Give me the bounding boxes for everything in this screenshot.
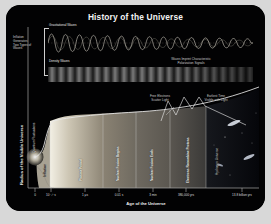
quantum-fluctuations-label: Quantum Fluctuations — [32, 123, 36, 153]
inflation-label: Inflation — [43, 164, 47, 177]
era-label-plasma-period: Plasma Period — [79, 159, 83, 181]
star-4 — [230, 175, 231, 176]
poster-panel: History of the Universe Inflation Genera… — [6, 5, 265, 211]
star-2 — [242, 133, 243, 134]
x-tick-label-1: 10⁻³⁵ s — [46, 193, 56, 197]
star-6 — [214, 145, 215, 146]
free-electrons-label: Free Electrons Scatter Light — [134, 95, 186, 103]
star-3 — [252, 143, 253, 144]
era-plasma-fill — [50, 114, 103, 189]
era-label-nuclear-fusion-ends: Nuclear Fusion Ends — [150, 149, 154, 181]
x-axis-title: Age of the Universe — [126, 201, 165, 206]
hydrogen-universe-label: Hydrogen Universe — [215, 148, 219, 175]
x-tick-label-4: 3 min — [149, 193, 157, 197]
star-5 — [256, 113, 257, 114]
era-hydrogen-fill — [206, 88, 259, 188]
x-tick-label-5: 380,000 yrs — [178, 193, 194, 197]
star-1 — [225, 137, 226, 138]
x-axis-ticks — [35, 188, 242, 192]
universe-cone-diagram — [6, 5, 265, 211]
figure-root: History of the Universe Inflation Genera… — [0, 0, 271, 224]
y-axis-title: Radius of the Visible Universe — [19, 125, 24, 185]
era-label-electrons-recombine-protons: Electrons Recombine Protons — [186, 137, 190, 183]
earliest-light-label: Earliest Time Visible with Light — [188, 95, 244, 103]
era-label-nuclear-fusion-begins: Nuclear Fusion Begins — [116, 146, 120, 181]
x-tick-label-0: 0 — [34, 193, 36, 197]
x-tick-label-2: 1 µs — [82, 193, 88, 197]
x-tick-label-6: 13.8 billion yrs — [232, 193, 252, 197]
x-tick-label-3: 0.01 s — [115, 193, 123, 197]
